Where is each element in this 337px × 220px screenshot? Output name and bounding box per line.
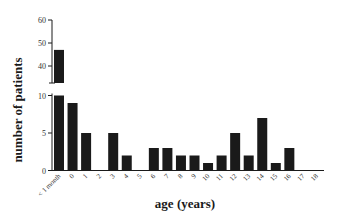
x-tick-label: 12 <box>228 172 239 183</box>
bar <box>108 133 118 171</box>
bar <box>284 148 294 171</box>
x-tick-label: 10 <box>201 172 212 183</box>
bar <box>230 133 240 171</box>
x-tick-label: 11 <box>215 172 226 183</box>
bar <box>244 156 254 171</box>
x-tick-label: 14 <box>255 172 266 183</box>
x-tick-label: 15 <box>269 172 280 183</box>
y-axis-label: number of patients <box>8 40 28 180</box>
x-tick-label: 17 <box>296 172 307 183</box>
x-tick-label: < 1 month <box>36 172 62 198</box>
bar <box>149 148 159 171</box>
bar-chart: 0510405060< 1 month012345678910111213141… <box>0 0 337 220</box>
y-tick-label: 10 <box>38 92 46 101</box>
y-tick-label: 5 <box>42 129 46 138</box>
bar <box>203 163 213 171</box>
x-tick-label: 18 <box>309 172 320 183</box>
bar <box>257 118 267 171</box>
y-tick-label: 60 <box>38 16 46 25</box>
x-tick-label: 1 <box>81 172 89 180</box>
x-tick-label: 13 <box>242 172 253 183</box>
bar <box>217 156 227 171</box>
x-axis-label: age (years) <box>130 196 240 212</box>
bar-upper-segment <box>54 50 64 83</box>
bar <box>176 156 186 171</box>
bar <box>68 103 78 171</box>
x-tick-label: 5 <box>136 172 144 180</box>
plot-area: 0510405060< 1 month012345678910111213141… <box>0 0 337 220</box>
y-tick-label: 0 <box>42 167 46 176</box>
x-tick-label: 4 <box>122 172 130 180</box>
x-tick-label: 6 <box>149 172 157 180</box>
y-tick-label: 40 <box>38 62 46 71</box>
bar-lower-segment <box>54 96 64 171</box>
x-tick-label: 7 <box>163 172 171 180</box>
x-tick-label: 0 <box>68 172 76 180</box>
bar <box>122 156 132 171</box>
x-tick-label: 2 <box>95 172 103 180</box>
x-tick-label: 9 <box>190 172 198 180</box>
y-axis-label-text: number of patients <box>10 57 26 162</box>
bar <box>162 148 172 171</box>
x-tick-label: 8 <box>176 172 184 180</box>
bar <box>271 163 281 171</box>
bar <box>190 156 200 171</box>
bar <box>81 133 91 171</box>
x-tick-label: 3 <box>108 172 116 180</box>
x-tick-label: 16 <box>282 172 293 183</box>
y-tick-label: 50 <box>38 39 46 48</box>
